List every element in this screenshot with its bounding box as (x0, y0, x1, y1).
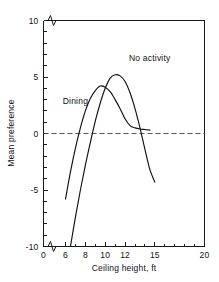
x-tick-label-10: 10 (100, 250, 110, 260)
x-tick-label-20: 20 (200, 250, 210, 260)
y-tick-label-0: 0 (34, 129, 39, 139)
x-axis-title: Ceiling height, ft (92, 263, 157, 273)
x-tick-label-15: 15 (150, 250, 160, 260)
preference-vs-ceiling-height-chart: 06810121520 1050-5-10 Dining No activity… (0, 0, 219, 282)
x-tick-label-12: 12 (120, 250, 130, 260)
x-axis-ticks: 06810121520 (41, 242, 209, 260)
y-tick-label--10: -10 (26, 242, 39, 252)
chart-container: 06810121520 1050-5-10 Dining No activity… (0, 0, 219, 282)
y-axis-title: Mean preference (6, 99, 16, 166)
x-tick-label-0: 0 (41, 250, 46, 260)
series-label-dining: Dining (63, 96, 88, 106)
y-tick-label--5: -5 (31, 185, 39, 195)
x-tick-label-8: 8 (83, 250, 88, 260)
series-label-no-activity: No activity (129, 53, 171, 63)
y-tick-label-5: 5 (34, 72, 39, 82)
y-tick-label-10: 10 (29, 16, 39, 26)
x-tick-label-6: 6 (63, 250, 68, 260)
